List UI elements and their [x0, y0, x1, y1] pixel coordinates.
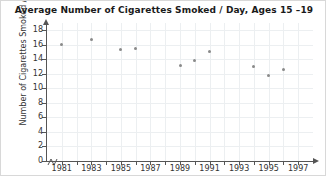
chart-container: Average Number of Cigarettes Smoked / Da… — [0, 0, 326, 176]
gridline-vertical — [106, 23, 107, 161]
y-axis-tick-label: 8 — [21, 98, 43, 107]
y-axis-tick-label: 12 — [21, 69, 43, 78]
y-axis-tick-label: 0 — [21, 156, 43, 165]
y-axis-tick-label: 2 — [21, 141, 43, 150]
y-axis-line — [46, 25, 47, 162]
y-axis-tick-label: 4 — [21, 127, 43, 136]
y-axis-arrow-icon — [43, 19, 49, 25]
gridline-vertical — [165, 23, 166, 161]
gridline-vertical — [298, 23, 299, 161]
y-axis-tick-label: 6 — [21, 112, 43, 121]
data-point — [119, 48, 122, 51]
gridline-vertical — [210, 23, 211, 161]
data-point — [193, 59, 196, 62]
data-point — [90, 38, 93, 41]
data-point — [179, 64, 182, 67]
data-point — [208, 50, 211, 53]
data-point — [60, 43, 63, 46]
x-axis-tick-label: 1997 — [281, 164, 315, 173]
plot-area — [47, 23, 313, 161]
data-point — [134, 47, 137, 50]
data-point — [282, 68, 285, 71]
gridline-vertical — [150, 23, 151, 161]
chart-title: Average Number of Cigarettes Smoked / Da… — [1, 5, 326, 15]
gridline-vertical — [195, 23, 196, 161]
data-point — [267, 74, 270, 77]
y-axis-tick-label: 14 — [21, 54, 43, 63]
gridline-vertical — [91, 23, 92, 161]
gridline-vertical — [121, 23, 122, 161]
gridline-vertical — [136, 23, 137, 161]
gridline-vertical — [269, 23, 270, 161]
gridline-vertical — [283, 23, 284, 161]
y-axis-tick-label: 16 — [21, 40, 43, 49]
data-point — [252, 65, 255, 68]
y-axis-tick-label: 10 — [21, 83, 43, 92]
gridline-vertical — [239, 23, 240, 161]
gridline-vertical — [180, 23, 181, 161]
y-axis-tick-label: 18 — [21, 25, 43, 34]
gridline-vertical — [254, 23, 255, 161]
gridline-vertical — [77, 23, 78, 161]
gridline-vertical — [224, 23, 225, 161]
